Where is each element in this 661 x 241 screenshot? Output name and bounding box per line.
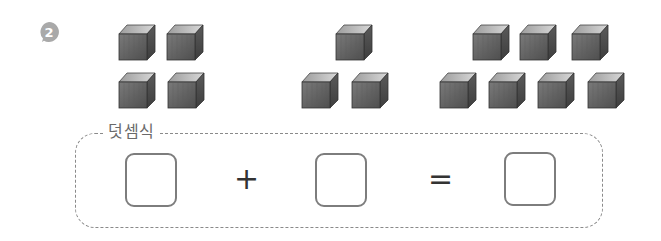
cube-icon xyxy=(570,22,610,62)
cube-icon xyxy=(300,70,340,110)
cube-icon xyxy=(586,70,626,110)
cube-icon xyxy=(536,70,576,110)
cube-icon xyxy=(471,22,511,62)
cube-icon xyxy=(334,22,374,62)
cube-icon xyxy=(165,22,205,62)
problem-number-badge: 2 xyxy=(38,21,60,43)
cube-icon xyxy=(166,70,206,110)
answer-blank-2[interactable] xyxy=(315,153,367,207)
cube-icon xyxy=(117,70,157,110)
equation-label: 덧셈식 xyxy=(104,122,159,142)
cube-icon xyxy=(518,22,558,62)
cube-icon xyxy=(438,70,478,110)
answer-blank-3[interactable] xyxy=(504,152,556,206)
cube-icon xyxy=(487,70,527,110)
equals-sign: = xyxy=(428,164,453,194)
answer-blank-1[interactable] xyxy=(125,153,177,207)
cube-icon xyxy=(117,22,157,62)
plus-sign: + xyxy=(234,164,259,194)
problem-number: 2 xyxy=(44,25,53,40)
cube-icon xyxy=(350,70,390,110)
